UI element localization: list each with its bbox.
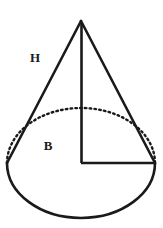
label-slant-height: H [30,50,40,65]
cone-diagram-svg: H B [0,0,163,228]
cone-diagram-figure: H B [0,0,163,228]
label-base: B [44,138,53,153]
